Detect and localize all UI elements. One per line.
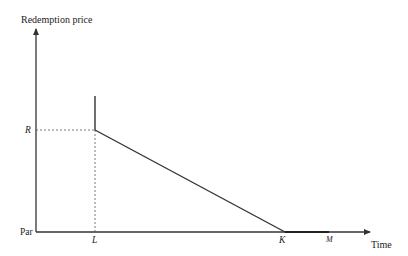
y-axis-label: Redemption price (21, 15, 92, 25)
price-decline (95, 130, 285, 232)
m-tick-label: M (326, 236, 333, 244)
l-tick-label: L (92, 236, 97, 246)
x-axis-label: Time (371, 240, 392, 250)
k-tick-label: K (279, 236, 285, 246)
par-tick-label: Par (20, 228, 33, 238)
r-tick-label: R (25, 126, 31, 136)
redemption-price-diagram (0, 0, 408, 256)
